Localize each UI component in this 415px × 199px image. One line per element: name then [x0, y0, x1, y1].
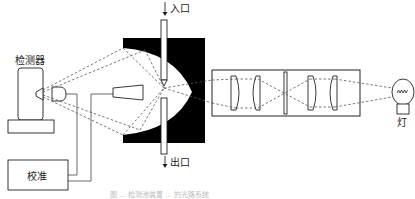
lamp-icon [392, 79, 414, 114]
lens-2 [253, 76, 260, 110]
inlet-label: 入口 [170, 3, 190, 14]
wire-reference-to-calibration [68, 94, 113, 181]
lens-4 [330, 76, 337, 110]
lamp-label: 灯 [397, 117, 407, 128]
reference-sensor [52, 87, 66, 101]
inlet-tube [161, 20, 167, 80]
lens-3 [308, 76, 316, 110]
figure-caption: 图 ... 检测池装置 ... 的光路系统 [110, 190, 209, 199]
outlet-tube [161, 98, 167, 154]
outlet-arrow-icon [163, 156, 168, 168]
optical-path-diagram: 检测器 校准 入口 出口 [0, 0, 415, 199]
outlet-label: 出口 [170, 156, 190, 168]
reference-cone [113, 85, 143, 100]
inlet-arrow-icon [163, 2, 168, 16]
lens-1 [231, 76, 239, 110]
detector-label: 检测器 [15, 54, 45, 66]
detector-base [8, 120, 54, 133]
calibration-label: 校准 [27, 170, 47, 182]
slit [284, 72, 287, 114]
